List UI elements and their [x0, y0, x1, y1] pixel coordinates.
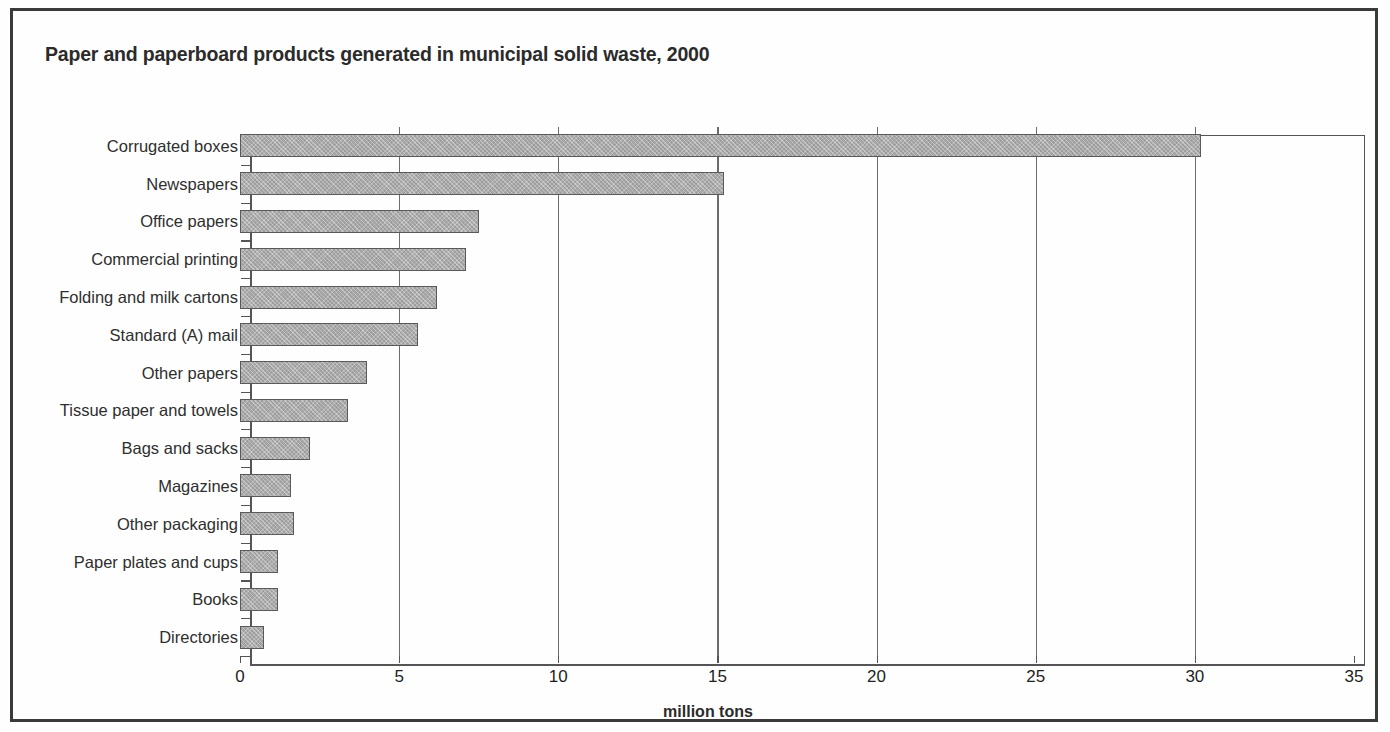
x-axis-label: million tons — [13, 703, 1390, 721]
x-tick-mark-5 — [399, 656, 400, 663]
category-label: Books — [33, 590, 238, 609]
bar — [240, 512, 294, 535]
y-tick-mark — [241, 354, 250, 355]
figure-border: Paper and paperboard products generated … — [10, 8, 1378, 722]
bar — [240, 210, 479, 233]
y-tick-mark — [241, 165, 250, 166]
bar — [240, 361, 367, 384]
x-tick-mark-30 — [1195, 656, 1196, 663]
x-tick-label: 10 — [549, 667, 568, 687]
bar — [240, 172, 724, 195]
x-tick-mark-10 — [558, 656, 559, 663]
y-tick-mark — [241, 505, 250, 506]
x-tick-label: 15 — [708, 667, 727, 687]
bar — [240, 588, 278, 611]
x-tick-label: 30 — [1185, 667, 1204, 687]
category-label: Standard (A) mail — [33, 325, 238, 344]
category-label: Tissue paper and towels — [33, 401, 238, 420]
y-tick-mark — [241, 656, 250, 657]
x-tick-label: 5 — [394, 667, 403, 687]
chart-title: Paper and paperboard products generated … — [45, 43, 709, 66]
x-tick-mark-25 — [1036, 656, 1037, 663]
category-label: Other papers — [33, 363, 238, 382]
category-label: Commercial printing — [33, 250, 238, 269]
x-tick-mark-0 — [240, 656, 241, 663]
y-tick-mark — [241, 429, 250, 430]
bar — [240, 286, 437, 309]
y-tick-mark — [241, 618, 250, 619]
x-tick-label: 0 — [235, 667, 244, 687]
x-tick-mark-15 — [717, 656, 718, 663]
category-label: Bags and sacks — [33, 439, 238, 458]
y-tick-mark — [241, 467, 250, 468]
x-axis-line — [250, 664, 1365, 666]
category-label: Other packaging — [33, 514, 238, 533]
y-tick-mark — [241, 316, 250, 317]
x-tick-mark-20 — [877, 656, 878, 663]
bar — [240, 134, 1201, 157]
x-tick-label: 25 — [1026, 667, 1045, 687]
y-tick-mark — [241, 543, 250, 544]
bar — [240, 323, 418, 346]
category-label: Paper plates and cups — [33, 552, 238, 571]
category-label: Newspapers — [33, 174, 238, 193]
y-tick-mark — [241, 240, 250, 241]
y-tick-mark — [241, 278, 250, 279]
bar — [240, 399, 348, 422]
chart-figure: Paper and paperboard products generated … — [0, 0, 1390, 732]
category-label: Directories — [33, 628, 238, 647]
bar — [240, 550, 278, 573]
bar — [240, 248, 466, 271]
x-tick-label: 35 — [1345, 667, 1364, 687]
y-tick-mark — [241, 203, 250, 204]
x-tick-label: 20 — [867, 667, 886, 687]
y-tick-mark — [241, 392, 250, 393]
category-label: Corrugated boxes — [33, 136, 238, 155]
bar — [240, 474, 291, 497]
x-tick-mark-35 — [1354, 656, 1355, 663]
category-label: Office papers — [33, 212, 238, 231]
bar — [240, 626, 264, 649]
category-label: Magazines — [33, 476, 238, 495]
bar — [240, 437, 310, 460]
category-label: Folding and milk cartons — [33, 288, 238, 307]
y-tick-mark — [241, 580, 250, 581]
